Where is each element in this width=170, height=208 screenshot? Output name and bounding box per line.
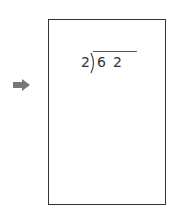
worksheet-card: 2 62 [48, 19, 166, 205]
divisor: 2 [81, 54, 90, 70]
dividend-digit: 2 [113, 54, 129, 70]
right-arrow-icon [13, 76, 30, 88]
dividend-digit: 6 [97, 54, 113, 70]
dividend: 62 [97, 54, 129, 70]
division-bar [93, 51, 137, 52]
division-bracket-icon [90, 52, 96, 74]
